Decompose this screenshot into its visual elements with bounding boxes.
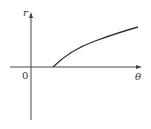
graph-figure — [0, 0, 151, 129]
theta-axis-label: θ — [135, 72, 141, 82]
curve — [53, 27, 138, 67]
theta-axis-arrow-icon — [136, 65, 142, 69]
origin-label: 0 — [22, 71, 28, 81]
r-axis-arrow-icon — [29, 12, 33, 18]
r-axis-label: r — [23, 8, 28, 18]
